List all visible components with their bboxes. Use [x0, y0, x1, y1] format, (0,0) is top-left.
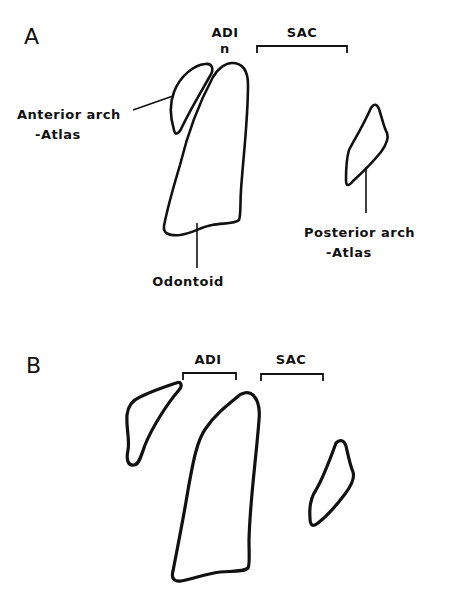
panel-b-sac-label: SAC — [276, 353, 306, 366]
panel-a-sac-bracket — [257, 46, 347, 53]
panel-b-adi-label: ADI — [194, 353, 221, 366]
panel-a-posterior-arch-outline — [346, 105, 388, 185]
panel-a-posterior-arch-sublabel: -Atlas — [326, 246, 372, 259]
panel-b-anterior-arch-outline — [127, 382, 181, 465]
panel-a-adi-label: ADI — [211, 26, 238, 39]
diagram-drawing — [0, 0, 449, 604]
panel-b-drawing — [127, 373, 354, 581]
panel-b-sac-bracket — [261, 374, 323, 381]
panel-a-letter: A — [24, 26, 39, 48]
panel-b-letter: B — [26, 355, 41, 377]
panel-a-anterior-arch-label: Anterior arch — [17, 108, 121, 121]
panel-a-adi-mark: n — [220, 42, 230, 55]
panel-a-posterior-arch-label: Posterior arch — [304, 226, 415, 239]
panel-a-anterior-arch-sublabel: -Atlas — [35, 128, 81, 141]
panel-b-adi-bracket — [183, 373, 236, 380]
panel-a-sac-label: SAC — [287, 26, 317, 39]
atlantoaxial-diagram: A ADI n SAC Anterior arch -Atlas Odontoi… — [0, 0, 449, 604]
panel-b-odontoid-outline — [172, 393, 259, 582]
panel-a-odontoid-label: Odontoid — [152, 275, 223, 288]
panel-a-anterior-arch-leader — [133, 96, 173, 110]
panel-b-posterior-arch-outline — [310, 441, 354, 526]
